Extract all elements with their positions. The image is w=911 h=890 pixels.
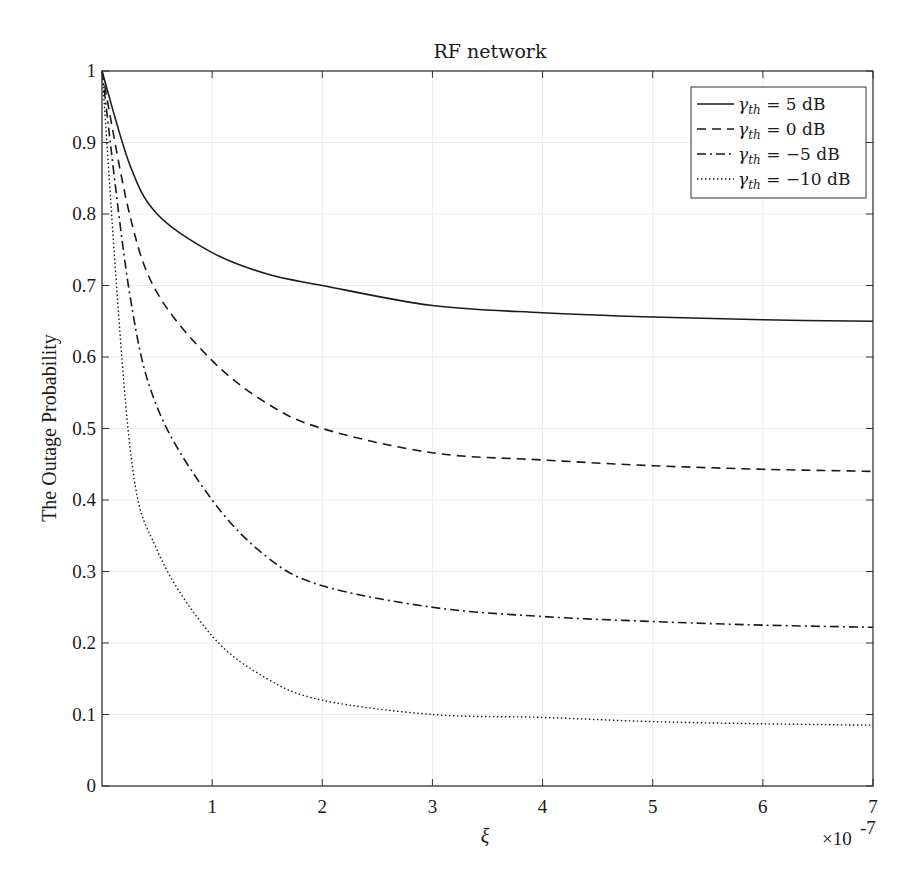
x-tick-label: 4 <box>538 796 548 817</box>
y-tick-label: 0.8 <box>72 203 96 224</box>
x-tick-label: 5 <box>648 796 658 817</box>
x-tick-label: 7 <box>868 796 878 817</box>
y-tick-label: 0.9 <box>72 132 96 153</box>
y-tick-label: 0.6 <box>72 346 96 367</box>
x-axis-label: ξ <box>481 825 490 847</box>
y-tick-label: 0.4 <box>72 489 96 510</box>
y-tick-label: 0.3 <box>72 561 96 582</box>
chart-title: RF network <box>434 40 547 62</box>
y-axis-label: The Outage Probability <box>38 334 61 522</box>
x-tick-label: 1 <box>207 796 217 817</box>
y-tick-labels: 00.10.20.30.40.50.60.70.80.91 <box>72 60 96 796</box>
y-tick-label: 0 <box>87 775 97 796</box>
y-tick-label: 0.2 <box>72 632 96 653</box>
x-tick-label: 6 <box>758 796 768 817</box>
x-multiplier-exponent: -7 <box>860 817 876 838</box>
x-tick-label: 3 <box>428 796 438 817</box>
x-tick-label: 2 <box>318 796 328 817</box>
x-axis-multiplier: ×10 -7 <box>822 817 876 849</box>
y-tick-label: 0.1 <box>72 704 96 725</box>
x-tick-labels: 1234567 <box>207 796 877 817</box>
y-tick-label: 1 <box>87 60 97 81</box>
y-tick-label: 0.7 <box>72 275 96 296</box>
y-tick-label: 0.5 <box>72 418 96 439</box>
outage-probability-chart: RF network 00.10.20.30.40.50.60.70.80.91… <box>0 0 911 890</box>
legend: γth = 5 dBγth = 0 dBγth = −5 dBγth = −10… <box>691 87 866 198</box>
x-multiplier-base: ×10 <box>822 828 852 849</box>
